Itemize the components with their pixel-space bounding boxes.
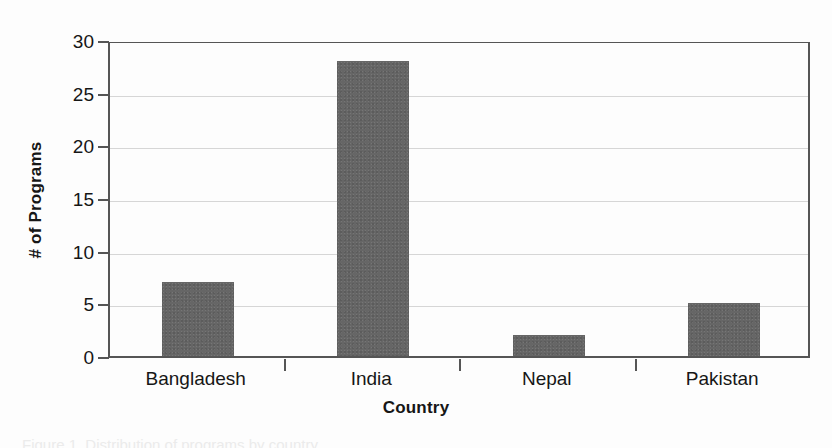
x-axis-tick-label: Nepal [459, 368, 635, 390]
bar [688, 303, 760, 356]
gridline [110, 96, 808, 97]
gridline [110, 254, 808, 255]
bar [162, 282, 234, 356]
figure-caption: Figure 1. Distribution of programs by co… [22, 436, 442, 448]
x-axis-tick-label: India [284, 368, 460, 390]
y-axis-tick-label: 5 [34, 294, 94, 316]
y-axis-tick-label: 0 [34, 347, 94, 369]
bar [513, 335, 585, 356]
plot-area [108, 42, 810, 358]
x-axis-tick-label: Pakistan [635, 368, 811, 390]
x-axis-title: Country [0, 398, 832, 418]
x-axis-tick-label: Bangladesh [108, 368, 284, 390]
bar-chart-figure: # of Programs 051015202530 BangladeshInd… [0, 0, 832, 448]
y-axis-tick-label: 10 [34, 242, 94, 264]
y-axis-tick-label: 15 [34, 189, 94, 211]
y-axis-tick-label: 20 [34, 136, 94, 158]
gridline [110, 148, 808, 149]
y-axis-tick-label: 30 [34, 31, 94, 53]
y-axis-tick-label: 25 [34, 84, 94, 106]
bar [337, 61, 409, 356]
gridline [110, 201, 808, 202]
